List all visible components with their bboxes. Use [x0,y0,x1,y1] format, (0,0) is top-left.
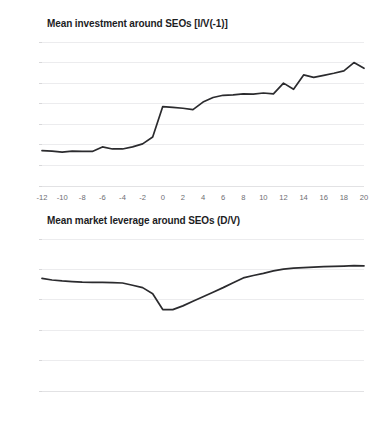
data-series-line [42,266,364,310]
x-axis-tick-label: 20 [360,193,368,202]
x-axis-tick-label: 6 [221,193,225,202]
plot-area-investment [42,42,364,186]
chart-panel-leverage: Mean market leverage around SEOs (D/V) 0… [0,208,376,430]
x-axis-tick-label: 18 [340,193,348,202]
chart-title-leverage: Mean market leverage around SEOs (D/V) [47,215,240,226]
x-axis-tick-label: -4 [119,193,126,202]
x-axis-tick-label: 16 [320,193,328,202]
x-axis-tick-label: 14 [299,193,307,202]
plot-area-leverage [42,239,364,391]
chart-title-investment: Mean investment around SEOs [I/V(-1)] [47,18,228,29]
line-chart-leverage [42,239,364,391]
x-axis-tick-label: 10 [259,193,267,202]
x-axis-tick-label: 12 [279,193,287,202]
x-axis-tick-label: -12 [37,193,48,202]
x-axis-tick-label: -10 [57,193,68,202]
x-axis-tick-label: 4 [201,193,205,202]
x-axis-tick-label: -6 [99,193,106,202]
data-series-line [42,63,364,152]
x-axis-tick-label: -2 [139,193,146,202]
x-axis-tick-label: 0 [161,193,165,202]
x-axis-tick-label: 2 [181,193,185,202]
x-axis-tick-label: 8 [241,193,245,202]
line-chart-investment [42,42,364,186]
x-axis-tick-label: -8 [79,193,86,202]
chart-panel-investment: Mean investment around SEOs [I/V(-1)] 0.… [0,0,376,208]
